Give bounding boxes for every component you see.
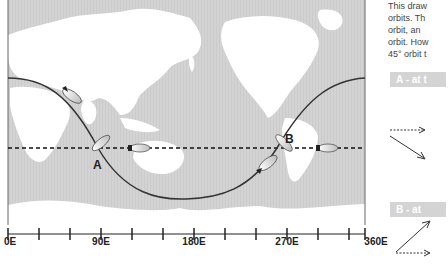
description-line: orbit. How [388, 36, 448, 48]
vector-arrows-a [390, 127, 425, 159]
tick-label-180e: 180E [182, 236, 205, 247]
tick-label-360e: 360E [364, 236, 387, 247]
tag-a: A - at t [390, 72, 446, 87]
tick-label-0e: 0E [4, 236, 16, 247]
vector-arrows-b [396, 221, 430, 256]
satellite-equatorial-2 [316, 144, 338, 152]
satellite-equatorial-1 [128, 144, 150, 152]
tick-label-90e: 90E [92, 236, 110, 247]
description-line: orbit, an [388, 24, 448, 36]
description-line: orbits. Th [388, 12, 448, 24]
tick-label-270e: 270E [275, 236, 298, 247]
description-line: This draw [388, 0, 448, 12]
description-line: 45° orbit t [388, 48, 448, 60]
tag-b: B - at [390, 202, 446, 217]
point-a-label: A [93, 158, 102, 172]
point-b-label: B [285, 132, 294, 146]
description-text: This draw orbits. Th orbit, an orbit. Ho… [388, 0, 448, 60]
